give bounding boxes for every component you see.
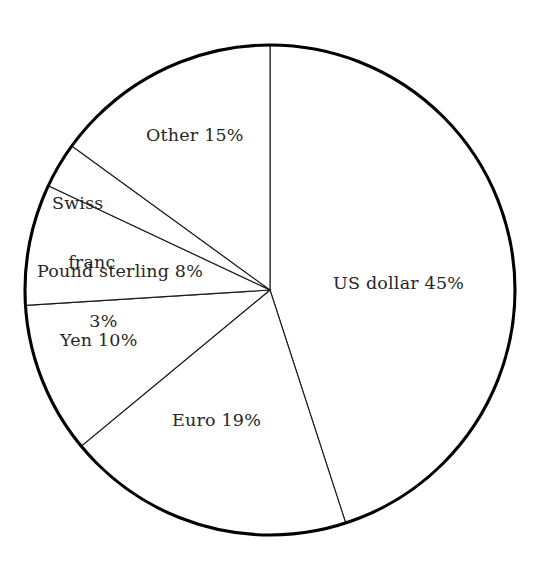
slice-label-swiss-franc: Swiss franc 3% xyxy=(52,155,118,371)
pie-chart-page: US dollar 45% Euro 19% Yen 10% Pound ste… xyxy=(0,0,536,568)
slice-label-swiss-franc-line-2: franc xyxy=(52,253,118,273)
slice-label-other: Other 15% xyxy=(146,126,244,146)
slice-label-swiss-franc-line-1: Swiss xyxy=(52,194,118,214)
slice-label-us-dollar: US dollar 45% xyxy=(333,274,464,294)
slice-label-euro: Euro 19% xyxy=(172,411,261,431)
slice-label-swiss-franc-line-3: 3% xyxy=(52,312,118,332)
